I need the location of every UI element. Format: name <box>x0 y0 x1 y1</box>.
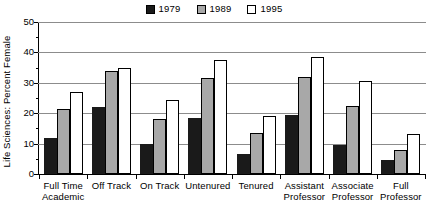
legend-label-1979: 1979 <box>159 4 181 14</box>
legend-label-1989: 1989 <box>210 4 232 14</box>
bar-1995-untenured <box>214 60 227 174</box>
bar-1989-full-time-academic <box>57 109 70 174</box>
bar-1995-tenured <box>263 116 276 174</box>
x-axis-tick <box>329 175 330 179</box>
x-axis-tick-label-line1: Tenured <box>239 180 274 191</box>
y-axis-tick-label: 40 <box>14 48 34 58</box>
y-axis-tick-label: 20 <box>14 108 34 118</box>
x-axis-tick-labels: Full TimeAcademicOff TrackOn TrackUntenu… <box>38 180 426 214</box>
legend-item-1995: 1995 <box>247 4 282 14</box>
bar-1995-full-professor <box>407 134 420 174</box>
bar-1995-full-time-academic <box>70 92 83 174</box>
chart-legend: 1979 1989 1995 <box>0 0 428 18</box>
bar-1995-on-track <box>166 100 179 174</box>
bar-1995-associate-professor <box>359 81 372 174</box>
legend-item-1979: 1979 <box>146 4 181 14</box>
y-axis-tick-label: 0 <box>14 169 34 179</box>
bar-1995-assistant-professor <box>311 57 324 174</box>
x-axis-tick <box>184 175 185 179</box>
y-axis-tick-labels: 01020304050 <box>14 20 34 175</box>
x-axis-tick <box>280 175 281 179</box>
bar-1989-on-track <box>153 119 166 174</box>
bar-1979-full-professor <box>381 160 394 174</box>
legend-swatch-icon-1995 <box>247 5 256 14</box>
bar-1989-associate-professor <box>346 106 359 174</box>
y-axis-tick-label: 30 <box>14 78 34 88</box>
legend-swatch-icon-1989 <box>197 5 206 14</box>
bars-layer <box>38 22 426 175</box>
bar-1979-on-track <box>140 144 153 174</box>
legend-item-1989: 1989 <box>197 4 232 14</box>
x-axis-tick-label-line1: Full Time <box>43 180 82 191</box>
y-axis-title: Life Sciences: Percent Female <box>0 20 14 182</box>
x-axis-tick-label-line2: Academic <box>33 191 93 202</box>
bar-chart: 1979 1989 1995 Life Sciences: Percent Fe… <box>0 0 428 216</box>
x-axis-tick-label-line1: Assistant <box>285 180 324 191</box>
x-axis-tick-label-line1: On Track <box>140 180 179 191</box>
x-axis-tick-label-line1: Untenured <box>185 180 230 191</box>
x-axis-tick <box>39 175 40 179</box>
x-axis-tick <box>232 175 233 179</box>
bar-1989-untenured <box>201 78 214 174</box>
legend-swatch-icon-1979 <box>146 5 155 14</box>
x-axis-tick-label-line2: Professor <box>371 191 428 202</box>
x-axis-tick <box>87 175 88 179</box>
legend-label-1995: 1995 <box>260 4 282 14</box>
x-axis-tick <box>136 175 137 179</box>
bar-1995-off-track <box>118 68 131 174</box>
bar-1989-off-track <box>105 71 118 174</box>
bar-1979-tenured <box>237 154 250 174</box>
bar-1979-off-track <box>92 107 105 174</box>
x-axis-tick <box>377 175 378 179</box>
y-axis-title-text: Life Sciences: Percent Female <box>2 35 13 167</box>
bar-1979-full-time-academic <box>44 138 57 174</box>
x-axis-tick-label-line1: Full <box>393 180 409 191</box>
y-axis-tick-label: 50 <box>14 17 34 27</box>
plot-area <box>38 22 426 175</box>
x-axis-tick-label-line1: Off Track <box>92 180 131 191</box>
x-axis-tick-label: FullProfessor <box>371 180 428 202</box>
y-axis-tick-label: 10 <box>14 139 34 149</box>
bar-1989-full-professor <box>394 150 407 174</box>
bar-1979-associate-professor <box>333 145 346 174</box>
bar-1979-assistant-professor <box>285 115 298 174</box>
x-axis-tick <box>425 175 426 179</box>
x-axis-tick-label-line1: Associate <box>332 180 374 191</box>
bar-1979-untenured <box>188 118 201 174</box>
bar-1989-assistant-professor <box>298 77 311 174</box>
bar-1989-tenured <box>250 133 263 174</box>
